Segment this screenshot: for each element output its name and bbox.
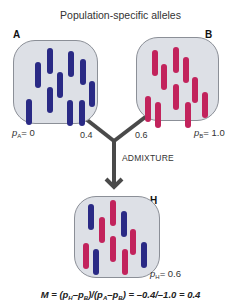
allele-b-bar	[173, 84, 179, 110]
admixture-formula: M = (pH–pB)/(pA–pB) = –0.4/–1.0 = 0.4	[0, 289, 241, 301]
weight-from-b: 0.6	[135, 130, 148, 140]
allele-a-bar	[89, 81, 95, 107]
allele-b-bar	[145, 96, 151, 122]
freq-value: = 0.6	[160, 268, 181, 279]
allele-b-bar	[99, 217, 105, 243]
allele-a-bar	[67, 100, 73, 126]
formula-part: ) = –0.4/–1.0 = 0.4	[123, 289, 201, 300]
allele-b-bar	[83, 243, 89, 269]
population-h-frequency: pH= 0.6	[150, 268, 181, 280]
formula-part: M = (p	[41, 289, 69, 300]
formula-part: –p	[107, 289, 118, 300]
allele-a-bar	[121, 211, 127, 237]
population-a-label: A	[13, 29, 20, 40]
allele-b-bar	[110, 200, 116, 226]
population-b-frequency: pB= 1.0	[194, 127, 225, 139]
allele-b-bar	[161, 64, 167, 90]
formula-part: –p	[73, 289, 84, 300]
population-a-frequency: pA= 0	[12, 127, 35, 139]
allele-b-bar	[130, 229, 136, 255]
freq-value: = 0	[21, 127, 34, 138]
weight-from-a: 0.4	[80, 130, 93, 140]
allele-b-bar	[122, 249, 128, 275]
allele-a-bar	[68, 51, 74, 77]
population-b-box	[136, 37, 219, 121]
allele-a-bar	[79, 100, 85, 126]
allele-a-bar	[57, 72, 63, 98]
allele-a-bar	[141, 242, 147, 268]
population-h-box	[74, 196, 160, 278]
allele-a-bar	[47, 87, 53, 113]
allele-b-bar	[192, 77, 198, 103]
allele-b-bar	[173, 47, 179, 73]
allele-b-bar	[155, 102, 161, 128]
allele-a-bar	[26, 99, 32, 125]
admixture-label: ADMIXTURE	[122, 153, 174, 163]
allele-b-bar	[110, 236, 116, 262]
allele-b-bar	[185, 102, 191, 128]
allele-a-bar	[47, 48, 53, 74]
population-a-box	[13, 40, 98, 124]
formula-part: )/(p	[88, 289, 103, 300]
allele-a-bar	[93, 249, 99, 275]
allele-a-bar	[35, 62, 41, 88]
allele-a-bar	[80, 59, 86, 85]
allele-b-bar	[183, 57, 189, 83]
freq-value: = 1.0	[203, 127, 224, 138]
allele-b-bar	[152, 50, 158, 76]
allele-a-bar	[88, 204, 94, 230]
allele-b-bar	[202, 92, 208, 118]
